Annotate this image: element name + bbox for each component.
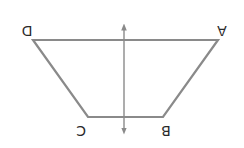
vertex-label-d: D (22, 23, 33, 39)
vertex-label-a: A (217, 23, 227, 39)
vertex-label-c: C (76, 123, 86, 139)
trapezoid-shape (33, 40, 218, 117)
vertex-label-b: B (161, 123, 171, 139)
trapezoid-diagram: D A B C (0, 0, 244, 148)
